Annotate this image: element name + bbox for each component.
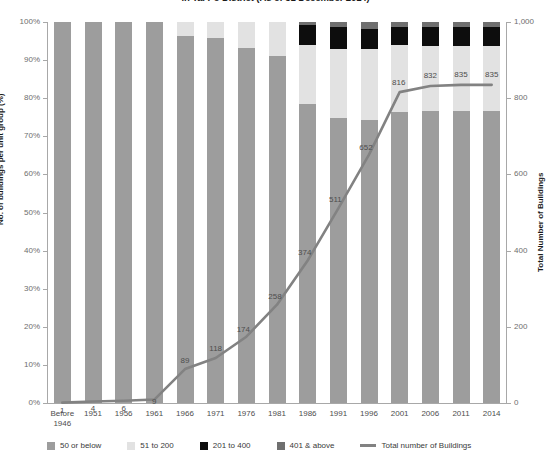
y-tick-mark [43, 213, 47, 214]
line-point-label: 89 [181, 357, 190, 365]
y2-tick-mark [507, 327, 511, 328]
y-tick-label: 90% [24, 56, 40, 64]
bar-segment[interactable] [269, 56, 286, 403]
line-point-label: 832 [424, 72, 437, 80]
bar-segment[interactable] [330, 118, 347, 403]
bar-segment[interactable] [330, 49, 347, 118]
y-tick-label: 40% [24, 247, 40, 255]
bar-segment[interactable] [453, 27, 470, 46]
bar-segment[interactable] [146, 22, 163, 403]
y2-tick-label: 800 [514, 94, 527, 102]
bar-stack[interactable] [54, 22, 71, 403]
bar-stack[interactable] [361, 22, 378, 403]
line-point-label: 511 [329, 196, 342, 204]
line-point-label: 174 [237, 326, 250, 334]
y2-tick-mark [507, 174, 511, 175]
bar-segment[interactable] [54, 22, 71, 403]
y-tick-label: 70% [24, 132, 40, 140]
legend-color-swatch [47, 442, 55, 450]
y-tick-mark [43, 174, 47, 175]
legend-item[interactable]: 51 to 200 [127, 441, 173, 450]
bar-segment[interactable] [453, 111, 470, 403]
legend-label: Total number of Buildings [381, 441, 471, 450]
bar-stack[interactable] [238, 22, 255, 403]
bar-segment[interactable] [483, 27, 500, 46]
bar-segment[interactable] [269, 22, 286, 56]
legend-item[interactable]: 201 to 400 [200, 441, 251, 450]
line-point-label: 9 [152, 398, 156, 406]
bar-stack[interactable] [330, 22, 347, 403]
bar-segment[interactable] [361, 49, 378, 120]
y2-tick-label: 0 [514, 399, 518, 407]
y-tick-label: 60% [24, 170, 40, 178]
bar-segment[interactable] [361, 22, 378, 29]
bar-segment[interactable] [238, 22, 255, 48]
bar-segment[interactable] [207, 22, 224, 38]
y2-tick-mark [507, 98, 511, 99]
line-point-label: 258 [268, 293, 281, 301]
y2-tick-mark [507, 251, 511, 252]
legend-item[interactable]: 50 or below [47, 441, 101, 450]
bar-segment[interactable] [299, 45, 316, 104]
chart-legend: 50 or below51 to 200201 to 400401 & abov… [47, 441, 517, 450]
y2-axis-line [506, 22, 507, 404]
plot-area: 0%10%20%30%40%50%60%70%80%90%100% 020040… [47, 22, 507, 404]
bar-stack[interactable] [299, 22, 316, 403]
bar-segment[interactable] [177, 22, 194, 36]
y2-tick-label: 1,000 [514, 18, 534, 26]
line-point-label: 835 [454, 71, 467, 79]
y-tick-mark [43, 22, 47, 23]
legend-color-swatch [277, 442, 285, 450]
y2-tick-mark [507, 22, 511, 23]
line-point-label: 652 [359, 144, 372, 152]
y-tick-label: 20% [24, 323, 40, 331]
bar-stack[interactable] [177, 22, 194, 403]
chart-container: in Tai Po District (As of 31 December 20… [0, 0, 551, 457]
bar-stack[interactable] [483, 22, 500, 403]
bar-segment[interactable] [483, 111, 500, 403]
bar-segment[interactable] [391, 112, 408, 403]
x-axis-line [47, 403, 507, 404]
bar-segment[interactable] [422, 27, 439, 46]
y-axis-title: No. of buildings per unit group (%) [0, 93, 5, 225]
bar-segment[interactable] [361, 120, 378, 403]
line-point-label: 816 [392, 79, 405, 87]
y-tick-mark [43, 327, 47, 328]
legend-color-swatch [127, 442, 135, 450]
y-tick-mark [43, 289, 47, 290]
bar-stack[interactable] [453, 22, 470, 403]
bar-segment[interactable] [391, 27, 408, 46]
x-category-label: 2014 [472, 409, 512, 419]
bar-segment[interactable] [238, 48, 255, 403]
y-tick-mark [43, 98, 47, 99]
legend-line-marker [360, 444, 376, 447]
bar-segment[interactable] [422, 111, 439, 403]
legend-item[interactable]: 401 & above [277, 441, 335, 450]
y-tick-mark [43, 60, 47, 61]
bar-segment[interactable] [299, 25, 316, 45]
bar-segment[interactable] [361, 29, 378, 49]
bar-stack[interactable] [85, 22, 102, 403]
bar-segment[interactable] [115, 22, 132, 403]
y-tick-mark [43, 403, 47, 404]
bar-stack[interactable] [146, 22, 163, 403]
bar-segment[interactable] [85, 22, 102, 403]
chart-title: in Tai Po District (As of 31 December 20… [0, 0, 551, 3]
bar-stack[interactable] [269, 22, 286, 403]
legend-label: 51 to 200 [140, 441, 173, 450]
y2-tick-label: 200 [514, 323, 527, 331]
y2-tick-mark [507, 403, 511, 404]
legend-label: 401 & above [290, 441, 335, 450]
bar-segment[interactable] [330, 27, 347, 49]
y-tick-label: 30% [24, 285, 40, 293]
y2-axis-title: Total Number of Buildings [536, 173, 545, 272]
legend-color-swatch [200, 442, 208, 450]
bar-stack[interactable] [115, 22, 132, 403]
y-tick-mark [43, 251, 47, 252]
line-point-label: 118 [209, 345, 222, 353]
y-tick-mark [43, 365, 47, 366]
bar-segment[interactable] [177, 36, 194, 403]
legend-label: 50 or below [60, 441, 101, 450]
legend-item[interactable]: Total number of Buildings [360, 441, 471, 450]
y-tick-label: 50% [24, 209, 40, 217]
